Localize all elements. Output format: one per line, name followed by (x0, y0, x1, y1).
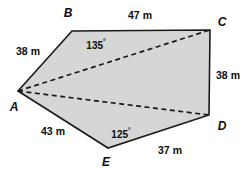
side-label-ab: 38 m (16, 46, 40, 57)
side-label-bc: 47 m (128, 10, 152, 21)
vertex-label-b: B (64, 7, 73, 19)
degree-symbol-e: ° (128, 127, 131, 134)
side-label-cd: 38 m (216, 70, 240, 81)
vertex-label-d: D (218, 120, 227, 132)
vertex-label-c: C (218, 16, 227, 28)
vertex-label-a: A (10, 101, 19, 113)
degree-symbol-b: ° (103, 38, 106, 45)
geometry-figure: A B C D E 38 m 47 m 38 m 37 m 43 m 135° … (0, 0, 250, 172)
angle-value-b: 135 (86, 40, 103, 51)
side-label-de: 37 m (158, 145, 182, 156)
angle-label-e: 125° (111, 128, 130, 139)
side-label-ea: 43 m (41, 126, 65, 137)
pentagon-diagram (0, 0, 250, 172)
angle-label-b: 135° (86, 39, 105, 50)
vertex-label-e: E (102, 156, 110, 168)
angle-value-e: 125 (111, 129, 128, 140)
